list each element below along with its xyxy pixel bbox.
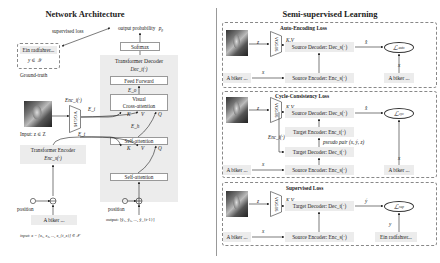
transformer-encoder-title: Transformer Encoder: [20, 148, 86, 153]
source-decoder-cycle: Source Decoder: Dec_s(·): [285, 108, 354, 118]
enc-i-label-cycle: Enc_i(·): [268, 135, 285, 140]
transformer-decoder-fn: Dec_t(·): [100, 67, 178, 72]
E-t-label: E_t: [78, 132, 85, 137]
text-target-sup: Ein radfahrer...: [375, 232, 417, 242]
supervised-title: Supervised Loss: [286, 186, 323, 191]
auto-encoding-title: Auto-Encoding Loss: [280, 26, 327, 31]
Q-label-2: Q: [158, 146, 162, 151]
vgg16-auto: VGG16: [270, 31, 282, 57]
x-label-sup-left: x: [262, 229, 264, 234]
E-i-label: E_i: [88, 107, 95, 112]
vgg16-sup: VGG16: [270, 191, 282, 217]
output-formula: output: [ỹ₁, ỹ₂, ..., ỹ_{t-1}]: [106, 218, 154, 223]
K-label-1: K: [127, 112, 130, 117]
input-formula: input: x = [x₁, x₂, ..., x_{t_x}] ∈ 𝒳: [20, 234, 80, 238]
svg-text:VGG16: VGG16: [73, 111, 78, 127]
y-hat-label-sup: ỹ: [365, 199, 367, 204]
target-encoder-cycle: Target Encoder: Enc_t(·): [285, 127, 354, 137]
x-label-cycle-left: x: [262, 162, 264, 167]
x-label-cycle-right: x: [398, 156, 400, 161]
ground-truth-text: Ein radfahrer...: [20, 46, 57, 54]
vgg16-encoder: VGG16: [69, 105, 81, 133]
source-decoder-auto: Source Decoder: Dec_s(·): [285, 42, 354, 52]
feed-forward-block: Feed Forward: [110, 76, 168, 85]
self-attention-block-2: Self-attention: [110, 173, 168, 181]
z-label-auto: z: [257, 40, 259, 45]
loss-auto: ℒauto: [384, 42, 414, 53]
svg-text:VGG16: VGG16: [274, 103, 279, 118]
y-label-sup-right: y: [389, 222, 391, 227]
ground-truth-symbol: y ∈ 𝒴: [28, 58, 41, 63]
x-hat-label-auto: x̂: [365, 40, 367, 45]
target-decoder-cycle: Target Decoder: Dec_t(·): [285, 147, 354, 157]
x-label-auto-right: x: [398, 63, 400, 68]
svg-text:VGG16: VGG16: [274, 37, 279, 52]
position-label-right: position: [108, 207, 125, 212]
input-image-sup: [226, 191, 248, 217]
K-label-2: K: [127, 146, 130, 151]
x-hat-label-cycle: x̂: [365, 106, 367, 111]
input-image-caption: Input: z ∈ Z: [20, 132, 46, 137]
svg-text:VGG16: VGG16: [274, 197, 279, 212]
E-h-label: E_h: [131, 124, 139, 129]
position-label-left: position: [17, 207, 34, 212]
E-o-label: E_o: [128, 88, 136, 93]
cycle-consistency-title: Cycle-Consistency Loss: [275, 94, 329, 99]
softmax-block: Softmax: [120, 42, 160, 51]
source-encoder-auto: Source Encoder: Enc_s(·): [285, 73, 354, 83]
ground-truth-caption: Ground-truth: [20, 73, 47, 78]
pseudo-pair-label: pseudo pair (x, ỹ, z): [323, 140, 364, 145]
input-image: [24, 101, 52, 127]
transformer-encoder-fn: Enc_s(·): [20, 156, 86, 161]
text-input-cycle: A biker ...: [223, 165, 251, 175]
z-label-cycle: z: [257, 106, 259, 111]
text-input-auto: A biker ...: [223, 73, 251, 83]
output-probability-label: output probability pθ: [118, 26, 163, 34]
visual-cross-attention-block: Visual Cross-attention: [110, 94, 168, 111]
supervised-loss-label: supervised loss: [52, 29, 84, 34]
input-text-box: A biker ...: [31, 215, 77, 225]
source-encoder-sup: Source Encoder: Enc_s(·): [285, 232, 354, 242]
loss-cycle: ℒcyc: [384, 108, 414, 119]
input-image-cycle: [226, 97, 248, 123]
enc-i-label: Enc_i(·): [65, 98, 82, 103]
panel-divider: [216, 8, 217, 256]
x-label-auto-left: x: [262, 70, 264, 75]
source-encoder-cycle: Source Encoder: Enc_s(·): [285, 165, 354, 175]
input-image-auto: [226, 30, 248, 56]
Q-label-1: Q: [158, 112, 162, 117]
text-input-sup: A biker ...: [223, 232, 251, 242]
text-target-cycle: A biker ...: [384, 165, 414, 175]
loss-sup: ℒsup: [384, 201, 414, 212]
transformer-decoder-title: Transformer Decoder: [100, 59, 178, 65]
z-label-sup: z: [257, 199, 259, 204]
vgg16-cycle: VGG16: [270, 97, 282, 123]
text-target-auto: A biker ...: [384, 73, 414, 83]
self-attention-block-1: Self-attention: [110, 137, 168, 145]
V-label-2: V: [141, 146, 144, 151]
network-architecture-title: Network Architecture: [20, 9, 150, 19]
semi-supervised-learning-title: Semi-supervised Learning: [250, 9, 410, 19]
target-decoder-sup: Target Decoder: Dec_t(·): [285, 201, 354, 211]
V-label-1: V: [141, 112, 144, 117]
